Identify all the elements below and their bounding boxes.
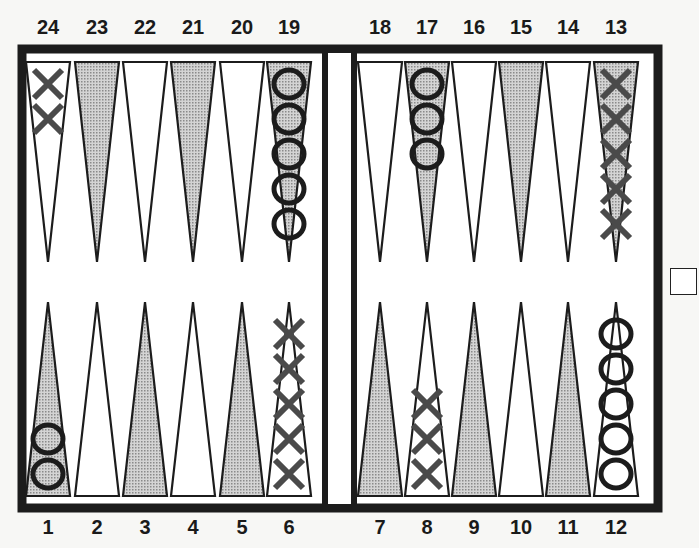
board-diagram bbox=[0, 0, 699, 548]
bar-right-edge bbox=[351, 53, 357, 504]
bar-left-edge bbox=[322, 53, 328, 504]
doubling-cube[interactable] bbox=[670, 268, 697, 295]
bar[interactable] bbox=[328, 53, 351, 504]
